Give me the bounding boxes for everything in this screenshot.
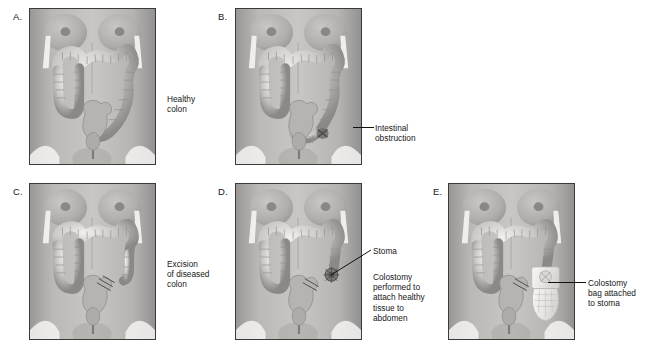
obstruction-marker-b	[317, 128, 329, 139]
panel-label-d: D.	[218, 186, 228, 197]
panel-label-b: B.	[218, 11, 227, 22]
caption-c: Excision of diseased colon	[167, 259, 209, 290]
panel-a-healthy-colon	[29, 8, 156, 165]
caption-d: Colostomy performed to attach healthy ti…	[373, 272, 425, 323]
torso-illustration-e	[449, 184, 574, 339]
leader-line-e-bag	[548, 282, 586, 283]
panel-label-a: A.	[13, 11, 22, 22]
stoma-callout-label-d: Stoma	[373, 246, 397, 256]
torso-illustration-c	[30, 184, 155, 339]
caption-b: Intestinal obstruction	[375, 123, 416, 143]
leader-line-d-stoma	[330, 248, 372, 276]
panel-b-intestinal-obstruction	[235, 8, 362, 165]
panel-label-c: C.	[13, 186, 23, 197]
torso-illustration-b	[236, 9, 361, 164]
colostomy-bag-e	[532, 267, 560, 321]
torso-illustration-a	[30, 9, 155, 164]
caption-a: Healthy colon	[167, 94, 195, 114]
panel-c-excision	[29, 183, 156, 340]
leader-line-b-obstruction	[353, 127, 374, 128]
panel-e-colostomy-bag	[448, 183, 575, 340]
figure-container: A.	[0, 0, 645, 354]
caption-e: Colostomy bag attached to stoma	[588, 278, 636, 309]
panel-label-e: E.	[433, 186, 442, 197]
